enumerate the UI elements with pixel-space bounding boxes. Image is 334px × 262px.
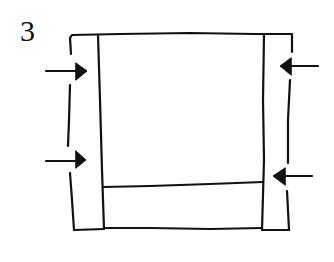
arrow-left-lower-icon [46, 151, 86, 168]
left-strip-bottom [74, 229, 104, 230]
bottom-strip-top-edge [103, 182, 263, 187]
right-strip-outer-lower [287, 191, 289, 230]
right-strip-outer-middle [288, 80, 290, 163]
left-strip-outer-upper [70, 38, 71, 54]
left-strip-outer-middle [68, 85, 70, 146]
arrow-right-upper-icon [280, 58, 318, 75]
arrow-right-lower-icon [273, 168, 312, 185]
left-strip-inner-edge [98, 35, 104, 229]
left-strip-outer-lower [70, 173, 74, 230]
frame-top-edge [70, 33, 292, 38]
diagram-canvas [0, 0, 334, 262]
right-strip-inner-edge [262, 34, 264, 230]
arrow-left-upper-icon [46, 63, 87, 80]
bottom-strip-bottom-edge [104, 228, 262, 229]
